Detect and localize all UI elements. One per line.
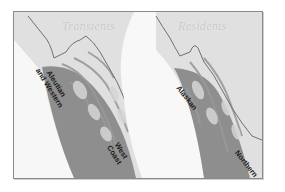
map-figure-frame: Transients Residents Aleutian and Wester…	[13, 11, 263, 179]
panel-title-transients: Transients	[62, 19, 115, 34]
panel-title-residents: Residents	[178, 19, 227, 34]
